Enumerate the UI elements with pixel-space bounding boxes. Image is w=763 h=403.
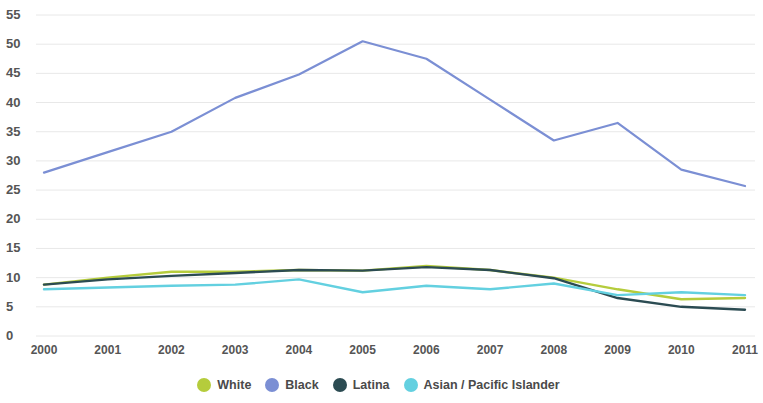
x-axis-tick-label: 2003 [209,344,261,356]
y-axis-tick-label: 10 [6,271,36,284]
legend-item[interactable]: Latina [333,378,390,392]
y-axis-tick-label: 55 [6,8,36,21]
legend-swatch-icon [333,378,347,392]
x-axis-tick-label: 2006 [400,344,452,356]
legend-label: White [217,378,251,392]
x-axis-tick-label: 2011 [719,344,763,356]
legend-item[interactable]: Black [265,378,318,392]
x-axis-tick-label: 2009 [592,344,644,356]
legend-swatch-icon [197,378,211,392]
legend-item[interactable]: Asian / Pacific Islander [404,378,560,392]
legend-label: Latina [353,378,390,392]
legend-label: Asian / Pacific Islander [424,378,560,392]
y-axis-tick-label: 0 [6,329,36,342]
y-axis-tick-label: 25 [6,183,36,196]
legend-item[interactable]: White [197,378,251,392]
x-axis-tick-label: 2004 [273,344,325,356]
x-axis-tick-label: 2000 [18,344,70,356]
x-axis-tick-label: 2005 [337,344,389,356]
y-axis-tick-label: 40 [6,96,36,109]
chart-legend: WhiteBlackLatinaAsian / Pacific Islander [0,378,757,392]
y-axis-tick-label: 20 [6,212,36,225]
legend-swatch-icon [265,378,279,392]
y-axis-tick-label: 15 [6,241,36,254]
x-axis-tick-label: 2002 [145,344,197,356]
y-axis-tick-label: 45 [6,66,36,79]
y-axis-tick-label: 50 [6,37,36,50]
x-axis-tick-label: 2007 [464,344,516,356]
x-axis-tick-label: 2008 [528,344,580,356]
x-axis-tick-label: 2010 [655,344,707,356]
legend-swatch-icon [404,378,418,392]
series-line-black [44,41,745,186]
legend-label: Black [285,378,318,392]
series-lines [44,41,745,309]
x-axis-tick-label: 2001 [82,344,134,356]
y-axis-tick-label: 5 [6,300,36,313]
y-axis-tick-label: 30 [6,154,36,167]
y-axis-tick-label: 35 [6,125,36,138]
